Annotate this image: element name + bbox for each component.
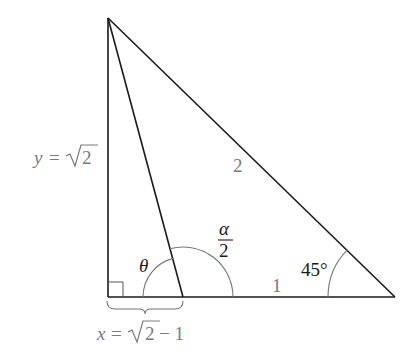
x-bracket xyxy=(107,301,183,314)
y-var-label: y xyxy=(32,147,43,168)
y-val-label: 2 xyxy=(82,147,92,168)
triangle-diagram: y = 2 2 α 2 θ 1 45° x = 2 − 1 xyxy=(0,0,416,351)
right-angle-marker xyxy=(108,282,123,297)
x-val-label: 2 xyxy=(145,323,155,344)
alpha-label: α xyxy=(219,218,230,239)
sqrt-icon xyxy=(128,321,160,342)
x-rest-label: − 1 xyxy=(159,323,184,344)
hypotenuse-label: 2 xyxy=(233,155,243,176)
angle-45-arc xyxy=(328,250,348,297)
angle-45-label: 45° xyxy=(301,259,328,280)
x-eq-label: = xyxy=(111,323,122,344)
x-var-label: x xyxy=(96,323,106,344)
theta-label: θ xyxy=(139,255,148,276)
y-eq-label: = xyxy=(49,147,60,168)
base-segment-label: 1 xyxy=(272,275,282,296)
diagram-canvas: y = 2 2 α 2 θ 1 45° x = 2 − 1 xyxy=(0,0,416,351)
hypotenuse xyxy=(108,18,395,297)
alpha-denominator-label: 2 xyxy=(219,240,229,261)
